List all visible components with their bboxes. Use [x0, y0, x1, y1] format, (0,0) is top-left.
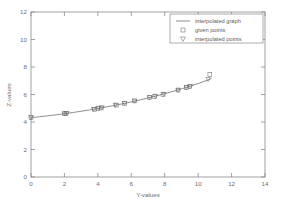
data-series-group	[29, 73, 212, 120]
y-tick-label: 10	[20, 36, 27, 43]
legend[interactable]: interpolated graphgiven pointsinterpolat…	[170, 14, 263, 43]
x-axis-label: Y-values	[136, 191, 160, 198]
given-points-markers	[29, 73, 212, 120]
figure-canvas: 02468101214 024681012 Y-values Z-values …	[0, 0, 285, 205]
x-tick-label: 0	[29, 180, 33, 187]
y-tick-label: 8	[24, 63, 28, 70]
interpolated-graph-line	[31, 79, 212, 118]
legend-label: interpolated points	[195, 36, 242, 42]
legend-label: interpolated graph	[195, 18, 241, 24]
y-tick-label: 0	[24, 173, 28, 180]
x-tick-label: 14	[262, 180, 269, 187]
y-tick-label: 4	[24, 118, 28, 125]
y-axis-label: Z-values	[5, 83, 12, 107]
x-tick-label: 4	[96, 180, 100, 187]
x-tick-label: 2	[63, 180, 67, 187]
marker-square	[208, 73, 212, 77]
y-tick-label: 2	[24, 146, 28, 153]
legend-label: given points	[195, 27, 226, 33]
x-tick-label: 8	[163, 180, 167, 187]
x-tick-label: 10	[195, 180, 202, 187]
chart-plot: 02468101214 024681012 Y-values Z-values …	[0, 0, 285, 205]
x-tick-label: 6	[130, 180, 134, 187]
x-tick-label: 12	[228, 180, 235, 187]
interpolated-points-markers	[29, 77, 211, 119]
y-tick-label: 12	[20, 8, 27, 15]
y-tick-label: 6	[24, 91, 28, 98]
